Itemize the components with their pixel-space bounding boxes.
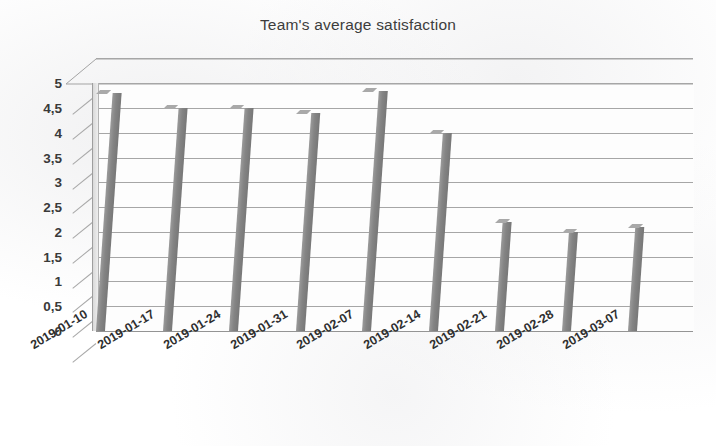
y-axis-tick-label: 1 <box>4 274 62 289</box>
depth-tick-0 <box>72 343 96 363</box>
gridline-1-5 <box>96 257 693 258</box>
gridline-5 <box>96 83 693 84</box>
y-axis-tick-label: 3,5 <box>4 150 62 165</box>
y-axis-tick-label: 0,5 <box>4 299 62 314</box>
y-axis-tick-label: 3 <box>4 175 62 190</box>
bar-2019-03-07[interactable] <box>628 227 639 331</box>
gridline-2-5 <box>96 207 693 208</box>
bar-2019-01-17[interactable] <box>163 108 174 331</box>
gridline-1 <box>96 281 693 282</box>
gridline-3 <box>96 182 693 183</box>
y-axis-tick-label: 4 <box>4 125 62 140</box>
y-axis-tick-label: 1,5 <box>4 249 62 264</box>
bar-2019-02-07[interactable] <box>362 91 373 331</box>
y-axis-tick-label: 2,5 <box>4 200 62 215</box>
chart-plot-area: 00,511,522,533,544,55 2019-01-102019-01-… <box>0 0 716 446</box>
gridline-3-5 <box>96 158 693 159</box>
y-axis-tick-label: 4,5 <box>4 101 62 116</box>
gridline-0-5 <box>96 306 693 307</box>
bar-2019-01-10[interactable] <box>96 93 107 331</box>
bar-2019-01-31[interactable] <box>296 113 307 331</box>
chart-top-plane-3d <box>66 58 693 86</box>
y-axis-tick-label: 5 <box>4 76 62 91</box>
y-axis-tick-label: 2 <box>4 224 62 239</box>
bar-2019-01-24[interactable] <box>229 108 240 331</box>
bar-2019-02-28[interactable] <box>562 232 573 331</box>
chart-lid-line <box>96 58 693 59</box>
bar-2019-02-14[interactable] <box>429 133 440 331</box>
bar-2019-02-21[interactable] <box>495 222 506 331</box>
gridline-2 <box>96 232 693 233</box>
y-axis-labels: 00,511,522,533,544,55 <box>0 0 62 446</box>
